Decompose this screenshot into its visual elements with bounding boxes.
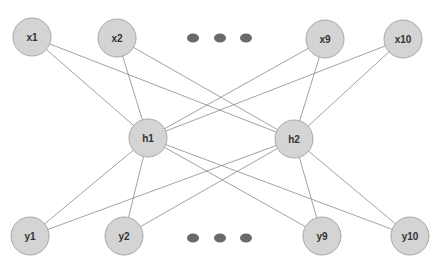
node-label: y10 bbox=[402, 231, 419, 242]
edge-x1-h2 bbox=[32, 37, 294, 139]
node-h1: h1 bbox=[129, 119, 167, 157]
edge-h1-y10 bbox=[148, 138, 410, 236]
node-label: h1 bbox=[142, 133, 154, 144]
node-label: y2 bbox=[118, 231, 130, 242]
ellipsis-bottom bbox=[187, 234, 252, 243]
ellipsis-dot bbox=[240, 34, 252, 43]
ellipsis-dot bbox=[214, 34, 226, 43]
ellipsis-dot bbox=[187, 234, 199, 243]
node-label: x10 bbox=[395, 34, 412, 45]
node-y9: y9 bbox=[303, 217, 341, 255]
ellipsis-layer bbox=[187, 34, 252, 243]
node-label: y1 bbox=[24, 231, 36, 242]
node-x2: x2 bbox=[98, 19, 136, 57]
node-y1: y1 bbox=[11, 217, 49, 255]
ellipsis-dot bbox=[240, 234, 252, 243]
node-label: h2 bbox=[288, 134, 300, 145]
node-label: x2 bbox=[111, 33, 123, 44]
ellipsis-dot bbox=[214, 234, 226, 243]
edge-x1-h1 bbox=[32, 37, 148, 138]
node-x9: x9 bbox=[306, 20, 344, 58]
ellipsis-top bbox=[187, 34, 252, 43]
node-x1: x1 bbox=[13, 18, 51, 56]
node-y10: y10 bbox=[391, 217, 429, 255]
edge-x10-h1 bbox=[148, 39, 403, 138]
edge-h2-y1 bbox=[30, 139, 294, 236]
node-x10: x10 bbox=[384, 20, 422, 58]
node-label: y9 bbox=[316, 231, 328, 242]
node-label: x1 bbox=[26, 32, 38, 43]
node-y2: y2 bbox=[105, 217, 143, 255]
edges-layer bbox=[30, 37, 410, 236]
ellipsis-dot bbox=[187, 34, 199, 43]
edge-x10-h2 bbox=[294, 39, 403, 139]
neural-network-diagram: x1x2x9x10h1h2y1y2y9y10 bbox=[0, 0, 438, 269]
node-label: x9 bbox=[319, 34, 331, 45]
node-h2: h2 bbox=[275, 120, 313, 158]
